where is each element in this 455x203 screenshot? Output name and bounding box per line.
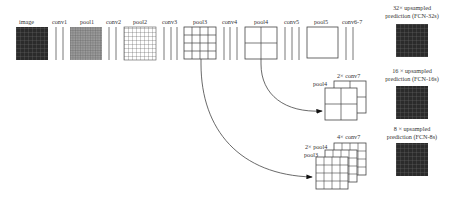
label-pool1: pool1: [80, 18, 94, 25]
fcn8s-line1: 8 × upsampled: [394, 125, 431, 132]
label-conv4: conv4: [222, 18, 237, 25]
fcn8s-line2: prediction (FCN-8s): [387, 133, 437, 141]
prediction-fcn32s: 32× upsampled prediction (FCN-32s): [385, 4, 438, 57]
stack-8s: 4× conv7 2× pool4 pool3: [304, 133, 366, 189]
label-conv1: conv1: [52, 18, 67, 25]
pool5-block: pool5: [307, 18, 338, 58]
label-2x-conv7: 2× conv7: [337, 72, 360, 79]
label-pool4-stack: pool4: [313, 80, 327, 87]
fcn32s-line2: prediction (FCN-32s): [385, 12, 438, 20]
label-pool2: pool2: [133, 18, 147, 25]
pool2-block: pool2: [124, 18, 156, 60]
label-4x-conv7: 4× conv7: [337, 133, 360, 140]
conv67-block: conv6-7: [342, 18, 362, 60]
prediction-fcn16s: 16 × upsampled prediction (FCN-16s): [385, 67, 438, 119]
label-conv67: conv6-7: [342, 18, 362, 25]
fcn16s-line1: 16 × upsampled: [392, 67, 432, 74]
arrow-pool3-to-stack8: [201, 59, 312, 177]
stack-16s: 2× conv7 pool4: [313, 72, 366, 120]
label-pool5: pool5: [314, 18, 328, 25]
conv5-block: conv5: [284, 18, 299, 60]
pool4-block: pool4: [245, 18, 277, 59]
prediction-fcn8s: 8 × upsampled prediction (FCN-8s): [387, 125, 437, 176]
label-pool3-stack: pool3: [304, 151, 318, 158]
conv4-block: conv4: [222, 18, 237, 60]
label-conv3: conv3: [162, 18, 177, 25]
label-2x-pool4: 2× pool4: [305, 143, 327, 150]
conv3-block: conv3: [162, 18, 177, 60]
conv2-block: conv2: [106, 18, 121, 60]
fcn16s-line2: prediction (FCN-16s): [385, 75, 438, 83]
fcn32s-line1: 32× upsampled: [393, 4, 432, 11]
fcn-diagram: image conv1 pool1 conv2 pool2 conv3 pool…: [0, 0, 455, 203]
label-pool4: pool4: [254, 18, 268, 25]
label-image: image: [19, 18, 34, 25]
image-block: image: [16, 18, 48, 60]
label-conv5: conv5: [284, 18, 299, 25]
conv1-block: conv1: [52, 18, 67, 60]
pool1-block: pool1: [70, 18, 102, 60]
pool3-block: pool3: [184, 18, 216, 59]
label-pool3: pool3: [193, 18, 207, 25]
label-conv2: conv2: [106, 18, 121, 25]
